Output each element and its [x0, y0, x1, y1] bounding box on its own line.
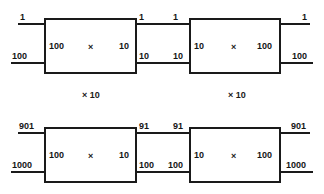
wire-bottom-left-input-lower — [11, 171, 46, 173]
wire-label-br-out-lower: 1000 — [286, 160, 306, 170]
wire-top-left-input-upper — [18, 23, 46, 25]
wire-label-bl-out-upper: 91 — [139, 121, 149, 131]
wire-label-tl-out-upper: 1 — [139, 12, 144, 22]
wire-label-tr-out-lower: 100 — [292, 51, 307, 61]
wire-label-tr-out-upper: 1 — [302, 12, 307, 22]
box-top-right-right-port: 100 — [257, 41, 272, 51]
wire-bottom-interconnect-upper — [137, 132, 189, 134]
diagram-canvas: 1 100 100 × 10 1 1 10 10 10 × 100 1 100 … — [0, 0, 324, 194]
wire-label-tl-in-upper: 1 — [20, 12, 25, 22]
wire-bottom-right-output-lower — [281, 171, 313, 173]
wire-label-tl-in-lower: 100 — [12, 51, 27, 61]
wire-top-interconnect-lower — [137, 62, 189, 64]
wire-label-bl-in-upper: 901 — [19, 121, 34, 131]
wire-top-right-output-lower — [281, 62, 313, 64]
wire-top-interconnect-upper — [137, 23, 189, 25]
wire-label-tr-in-upper: 1 — [173, 12, 178, 22]
wire-label-bl-in-lower: 1000 — [12, 160, 32, 170]
box-top-left-right-port: 10 — [119, 41, 129, 51]
box-bottom-left-left-port: 100 — [49, 150, 64, 160]
box-top-left-operator: × — [88, 42, 93, 52]
box-bottom-right-right-port: 100 — [257, 150, 272, 160]
stage-label-right: × 10 — [228, 90, 246, 100]
wire-label-bl-out-lower: 100 — [139, 160, 154, 170]
wire-label-br-in-lower: 100 — [168, 160, 183, 170]
box-bottom-right-operator: × — [231, 151, 236, 161]
box-top-right-left-port: 10 — [194, 41, 204, 51]
stage-label-left: × 10 — [82, 90, 100, 100]
wire-bottom-left-input-upper — [18, 132, 46, 134]
wire-top-right-output-upper — [281, 23, 310, 25]
wire-label-br-in-upper: 91 — [173, 121, 183, 131]
box-bottom-left-right-port: 10 — [119, 150, 129, 160]
wire-top-left-input-lower — [11, 62, 46, 64]
wire-label-tl-out-lower: 10 — [139, 51, 149, 61]
box-top-right-operator: × — [231, 42, 236, 52]
wire-bottom-right-output-upper — [281, 132, 310, 134]
box-bottom-left-operator: × — [88, 151, 93, 161]
box-bottom-right-left-port: 10 — [194, 150, 204, 160]
wire-label-br-out-upper: 901 — [291, 121, 306, 131]
wire-bottom-interconnect-lower — [137, 171, 189, 173]
box-top-left-left-port: 100 — [49, 41, 64, 51]
wire-label-tr-in-lower: 10 — [173, 51, 183, 61]
